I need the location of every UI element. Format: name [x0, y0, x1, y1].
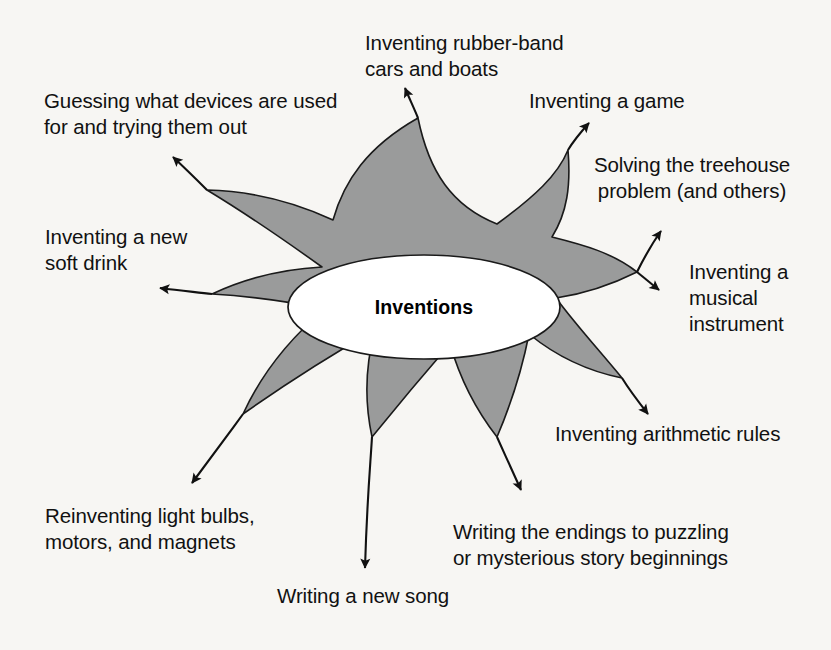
spoke-label-guessing-devices: Guessing what devices are used for and t…	[44, 88, 337, 140]
diagram-page: Inventions Inventing rubber-band cars an…	[0, 0, 831, 650]
spoke-label-rubber-band-cars: Inventing rubber-band cars and boats	[365, 30, 564, 82]
arrow-stem-rubber-band-cars	[405, 88, 418, 118]
spoke-label-musical-instrument: Inventing a musical instrument	[689, 259, 788, 337]
center-label: Inventions	[344, 296, 504, 319]
arrow-stem-light-bulbs	[192, 414, 243, 483]
arrow-stem-guessing-devices	[173, 157, 207, 190]
arrow-stem-arithmetic-rules	[622, 378, 648, 414]
arrow-stem-musical-instrument	[637, 272, 659, 290]
spoke-label-arithmetic-rules: Inventing arithmetic rules	[555, 421, 780, 447]
spoke-label-new-song: Writing a new song	[277, 583, 449, 609]
spoke-label-story-endings: Writing the endings to puzzling or myste…	[453, 519, 729, 571]
arrow-stem-treehouse-problem	[637, 231, 661, 272]
spoke-label-inventing-a-game: Inventing a game	[529, 88, 685, 114]
spoke-label-soft-drink: Inventing a new soft drink	[45, 224, 187, 276]
arrow-stem-new-song	[365, 437, 372, 568]
spoke-label-light-bulbs: Reinventing light bulbs, motors, and mag…	[45, 503, 255, 555]
spoke-label-treehouse-problem: Solving the treehouse problem (and other…	[566, 152, 818, 204]
arrow-stem-story-endings	[497, 437, 521, 490]
arrow-stem-soft-drink	[160, 288, 212, 294]
arrow-stem-inventing-a-game	[568, 123, 589, 150]
